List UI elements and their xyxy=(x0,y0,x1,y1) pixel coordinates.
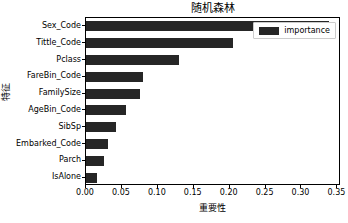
y-tick-mark xyxy=(82,177,85,178)
y-tick-mark xyxy=(82,59,85,60)
bar-isalone xyxy=(86,173,97,183)
y-tick-label-familysize: FamilySize xyxy=(39,88,81,97)
y-tick-label-sibsp: SibSp xyxy=(58,122,81,131)
bar-row xyxy=(86,35,233,52)
bar-row xyxy=(86,169,97,185)
y-tick-mark xyxy=(82,160,85,161)
legend-swatch-importance xyxy=(259,27,279,35)
plot-area: importance xyxy=(85,17,340,185)
bar-row xyxy=(86,68,143,85)
x-tick-label-0.20: 0.20 xyxy=(220,188,238,198)
bar-familysize xyxy=(86,89,140,99)
y-tick-mark xyxy=(82,126,85,127)
bar-row xyxy=(86,52,179,69)
bar-row xyxy=(86,136,108,153)
x-tick-label-0.35: 0.35 xyxy=(328,188,346,198)
bar-pclass xyxy=(86,55,179,65)
x-tick-mark xyxy=(229,185,230,188)
x-tick-mark xyxy=(300,185,301,188)
chart-figure: 随机森林 特征 重要性 IsAloneParchEmbarked_CodeSib… xyxy=(0,0,348,223)
x-tick-mark xyxy=(157,185,158,188)
y-tick-label-tittle_code: Tittle_Code xyxy=(36,38,81,47)
legend-label-importance: importance xyxy=(284,26,330,35)
y-tick-mark xyxy=(82,25,85,26)
chart-title: 随机森林 xyxy=(85,2,340,15)
bar-row xyxy=(86,102,126,119)
y-tick-mark xyxy=(82,93,85,94)
x-tick-mark xyxy=(121,185,122,188)
y-tick-mark xyxy=(82,42,85,43)
x-axis-tick-labels: 0.000.050.100.150.200.250.300.35 xyxy=(0,188,348,200)
x-tick-label-0.10: 0.10 xyxy=(148,188,166,198)
bar-parch xyxy=(86,156,104,166)
x-axis-title: 重要性 xyxy=(85,203,340,214)
y-tick-mark xyxy=(82,76,85,77)
bar-embarked_code xyxy=(86,139,108,149)
bar-row xyxy=(86,85,140,102)
bar-agebin_code xyxy=(86,105,126,115)
y-tick-label-farebin_code: FareBin_Code xyxy=(27,71,81,80)
x-tick-label-0.00: 0.00 xyxy=(76,188,94,198)
y-tick-label-embarked_code: Embarked_Code xyxy=(16,139,81,148)
y-tick-label-sex_code: Sex_Code xyxy=(42,21,81,30)
x-tick-mark xyxy=(193,185,194,188)
y-tick-label-parch: Parch xyxy=(59,155,81,164)
y-tick-mark xyxy=(82,109,85,110)
bar-tittle_code xyxy=(86,38,233,48)
bar-row xyxy=(86,119,116,136)
y-tick-label-agebin_code: AgeBin_Code xyxy=(28,105,81,114)
x-tick-label-0.30: 0.30 xyxy=(292,188,310,198)
x-tick-mark xyxy=(265,185,266,188)
y-tick-label-isalone: IsAlone xyxy=(52,172,81,181)
y-tick-mark xyxy=(82,143,85,144)
x-tick-label-0.25: 0.25 xyxy=(256,188,274,198)
y-axis-tick-labels: IsAloneParchEmbarked_CodeSibSpAgeBin_Cod… xyxy=(0,17,81,185)
x-tick-label-0.05: 0.05 xyxy=(112,188,130,198)
x-tick-mark xyxy=(85,185,86,188)
legend: importance xyxy=(253,22,336,39)
x-tick-mark xyxy=(336,185,337,188)
bar-row xyxy=(86,152,104,169)
bar-farebin_code xyxy=(86,72,143,82)
bar-sibsp xyxy=(86,122,116,132)
x-tick-label-0.15: 0.15 xyxy=(184,188,202,198)
y-tick-label-pclass: Pclass xyxy=(56,55,81,64)
